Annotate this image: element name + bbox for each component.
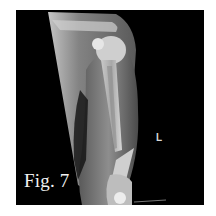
side-marker-label: L — [156, 132, 162, 143]
xray-image: L Fig. 7 — [16, 10, 204, 205]
figure-caption: Fig. 7 — [24, 170, 70, 192]
